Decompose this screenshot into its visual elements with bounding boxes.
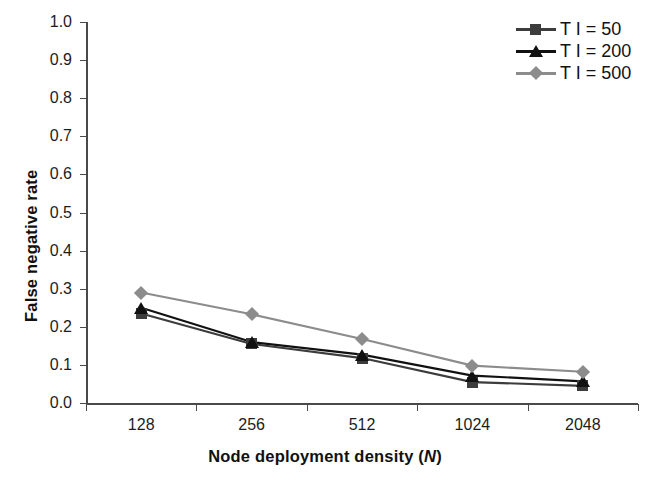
legend-swatch [516,43,556,59]
chart-legend: T I = 50T I = 200T I = 500 [516,18,631,84]
legend-swatch [516,65,556,81]
legend-label: T I = 50 [560,20,621,38]
x-axis-title-close: ) [436,447,442,465]
triangle-marker-icon [134,302,148,314]
legend-label: T I = 200 [560,42,631,60]
square-marker-icon [530,24,541,35]
legend-item[interactable]: T I = 200 [516,40,631,62]
diamond-marker-icon [529,66,543,80]
triangle-marker-icon [529,45,543,57]
triangle-marker-icon [245,336,259,348]
legend-item[interactable]: T I = 50 [516,18,631,40]
legend-label: T I = 500 [560,64,631,82]
triangle-marker-icon [355,349,369,361]
x-axis-title-variable: N [424,447,436,465]
x-axis-title: Node deployment density (N) [0,447,650,466]
legend-item[interactable]: T I = 500 [516,62,631,84]
x-axis-title-text: Node deployment density ( [208,447,424,465]
chart-container: False negative rate 1.00.90.80.70.60.50.… [0,0,650,490]
legend-swatch [516,21,556,37]
